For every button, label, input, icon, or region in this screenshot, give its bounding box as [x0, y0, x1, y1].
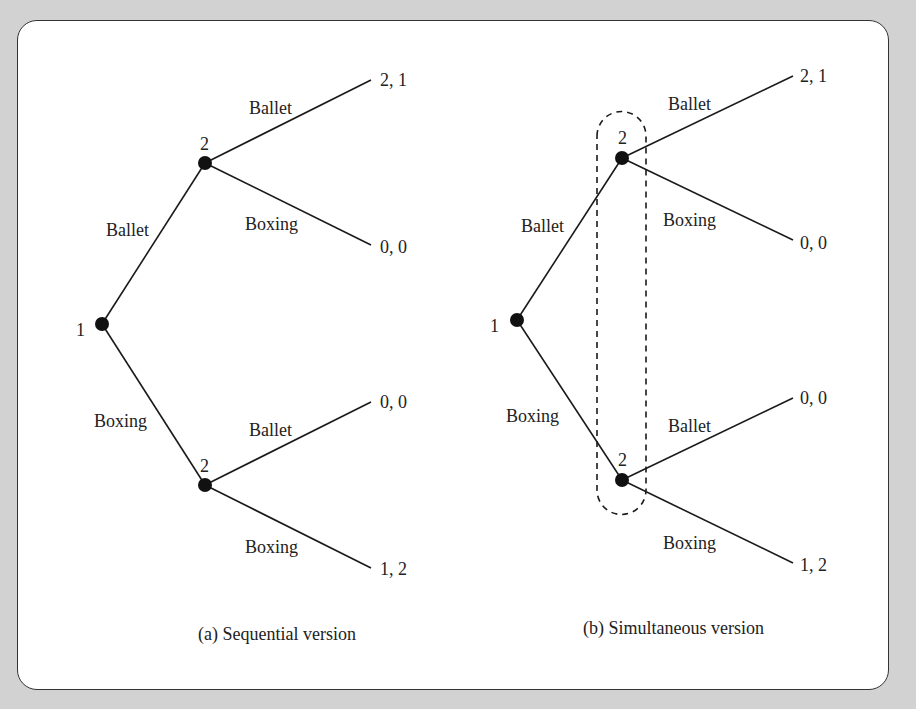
- player-label-b-lower: 2: [618, 450, 627, 470]
- move-label-b-ballet-3: Ballet: [668, 416, 711, 436]
- node-b-lower: [615, 473, 629, 487]
- caption-b: (b) Simultaneous version: [583, 618, 764, 639]
- payoff-a-1: 2, 1: [380, 70, 407, 90]
- node-b-root: [510, 313, 524, 327]
- payoff-a-4: 1, 2: [380, 559, 407, 579]
- edge-b-low-ballet: [622, 398, 793, 480]
- edge-b-p1-ballet: [517, 158, 622, 320]
- panel-simultaneous: 1 2 2 Ballet Boxing Ballet Boxing Ballet…: [490, 66, 827, 639]
- move-label-a-ballet-3: Ballet: [249, 420, 292, 440]
- move-label-a-ballet-2: Ballet: [249, 98, 292, 118]
- caption-a: (a) Sequential version: [198, 624, 356, 645]
- move-label-a-boxing-1: Boxing: [94, 411, 147, 431]
- move-label-a-boxing-3: Boxing: [245, 537, 298, 557]
- payoff-b-4: 1, 2: [800, 555, 827, 575]
- move-label-a-boxing-2: Boxing: [245, 214, 298, 234]
- payoff-a-3: 0, 0: [380, 392, 407, 412]
- player-label-a-upper: 2: [200, 134, 209, 154]
- edge-a-up-ballet: [205, 80, 371, 163]
- move-label-b-ballet-2: Ballet: [668, 94, 711, 114]
- move-label-b-ballet-1: Ballet: [521, 216, 564, 236]
- panel-sequential: 1 2 2 Ballet Boxing Ballet Boxing Ballet…: [76, 70, 407, 645]
- payoff-a-2: 0, 0: [380, 237, 407, 257]
- edge-b-up-ballet: [622, 76, 793, 158]
- game-tree-diagram: 1 2 2 Ballet Boxing Ballet Boxing Ballet…: [0, 0, 916, 709]
- move-label-b-boxing-1: Boxing: [506, 406, 559, 426]
- move-label-b-boxing-2: Boxing: [663, 210, 716, 230]
- player-label-b-root: 1: [490, 316, 499, 336]
- node-a-upper: [198, 156, 212, 170]
- edge-a-p1-boxing: [102, 324, 205, 485]
- player-label-a-root: 1: [76, 320, 85, 340]
- player-label-b-upper: 2: [618, 128, 627, 148]
- payoff-b-3: 0, 0: [800, 388, 827, 408]
- node-b-upper: [615, 151, 629, 165]
- payoff-b-1: 2, 1: [800, 66, 827, 86]
- edge-b-p1-boxing: [517, 320, 622, 480]
- move-label-a-ballet-1: Ballet: [106, 220, 149, 240]
- move-label-b-boxing-3: Boxing: [663, 533, 716, 553]
- node-a-root: [95, 317, 109, 331]
- node-a-lower: [198, 478, 212, 492]
- payoff-b-2: 0, 0: [800, 233, 827, 253]
- edge-a-p1-ballet: [102, 163, 205, 324]
- edge-a-low-ballet: [205, 402, 371, 485]
- player-label-a-lower: 2: [200, 456, 209, 476]
